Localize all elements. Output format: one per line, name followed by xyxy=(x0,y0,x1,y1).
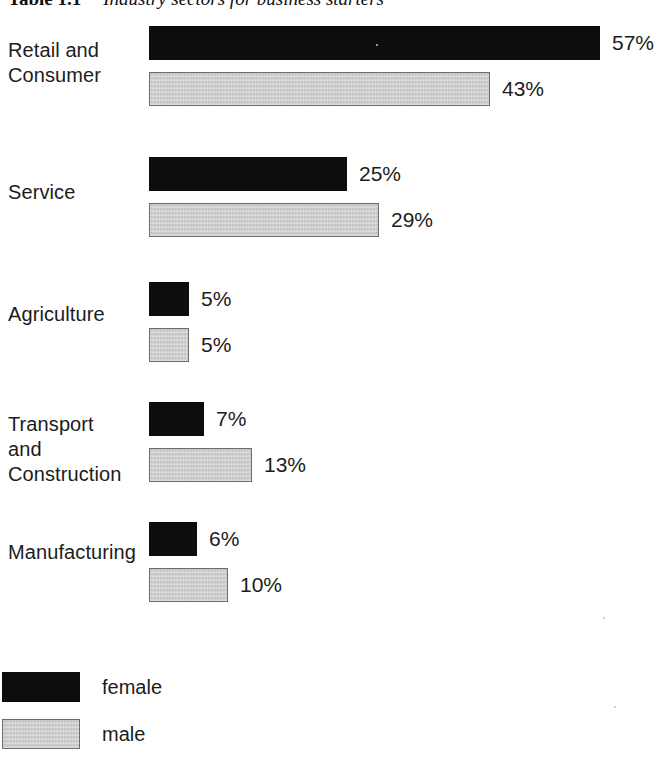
bar-value-label: 57% xyxy=(612,29,654,57)
chart-title-strip: Table 1.1Industry sectors for business s… xyxy=(0,0,664,14)
bar-value-label: 43% xyxy=(502,75,544,103)
bar-row: 57% xyxy=(149,26,664,60)
bar-row: 43% xyxy=(149,72,664,106)
bar-row: 7% xyxy=(149,402,664,436)
bar-value-label: 5% xyxy=(201,331,231,359)
bar-value-label: 7% xyxy=(216,405,246,433)
legend-item-female[interactable]: female xyxy=(2,672,302,702)
bar-row: 5% xyxy=(149,282,664,316)
bar-male[interactable] xyxy=(149,203,379,237)
bar-value-label: 13% xyxy=(264,451,306,479)
bar-row: 10% xyxy=(149,568,664,602)
bar-male[interactable] xyxy=(149,328,189,362)
bar-female[interactable] xyxy=(149,157,347,191)
bar-female[interactable] xyxy=(149,402,204,436)
bar-value-label: 5% xyxy=(201,285,231,313)
legend-item-male[interactable]: male xyxy=(2,719,302,749)
legend-swatch-male xyxy=(2,719,80,749)
legend-swatch-female xyxy=(2,672,80,702)
page-title: Industry sectors for business starters xyxy=(103,0,384,9)
category-label: Agriculture xyxy=(8,302,105,327)
legend-label: female xyxy=(102,673,162,701)
bar-row: 6% xyxy=(149,522,664,556)
scan-speck xyxy=(603,617,605,619)
scan-speck xyxy=(376,44,378,46)
category-label: Transport and Construction xyxy=(8,412,121,487)
bar-male[interactable] xyxy=(149,448,252,482)
bar-value-label: 6% xyxy=(209,525,239,553)
bar-chart: Retail and Consumer57%43%Service25%29%Ag… xyxy=(0,14,664,634)
bar-male[interactable] xyxy=(149,568,228,602)
bar-row: 29% xyxy=(149,203,664,237)
bar-value-label: 29% xyxy=(391,206,433,234)
bar-female[interactable] xyxy=(149,282,189,316)
table-number-label: Table 1.1 xyxy=(8,0,81,9)
bar-female[interactable] xyxy=(149,522,197,556)
category-label: Service xyxy=(8,180,75,205)
bar-female[interactable] xyxy=(149,26,600,60)
legend-label: male xyxy=(102,720,145,748)
bar-row: 13% xyxy=(149,448,664,482)
bar-value-label: 25% xyxy=(359,160,401,188)
bar-row: 5% xyxy=(149,328,664,362)
bar-row: 25% xyxy=(149,157,664,191)
scan-speck xyxy=(614,706,616,708)
bar-value-label: 10% xyxy=(240,571,282,599)
bar-male[interactable] xyxy=(149,72,490,106)
category-label: Manufacturing xyxy=(8,540,136,565)
category-label: Retail and Consumer xyxy=(8,38,101,88)
